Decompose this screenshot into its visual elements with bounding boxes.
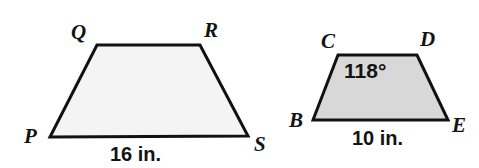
vertex-label-d: D <box>420 29 435 50</box>
vertex-label-e: E <box>452 115 466 136</box>
vertex-label-b: B <box>289 110 303 131</box>
vertex-label-c: C <box>321 31 335 52</box>
angle-measure-c: 118° <box>344 60 386 81</box>
geometry-figure: Q R P S 16 in. C D B E 118° 10 in. <box>0 0 479 168</box>
vertex-label-q: Q <box>71 22 86 43</box>
vertex-label-r: R <box>204 20 218 41</box>
side-measure-ps: 16 in. <box>110 144 161 164</box>
vertex-label-p: P <box>24 126 37 147</box>
side-measure-be: 10 in. <box>352 128 403 148</box>
vertex-label-s: S <box>254 134 266 155</box>
